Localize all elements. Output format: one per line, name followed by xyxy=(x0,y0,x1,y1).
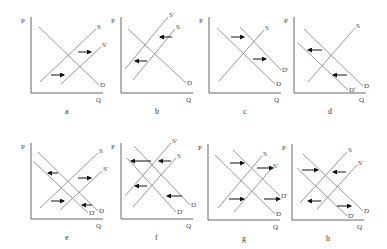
demand-curve xyxy=(33,161,88,213)
curve-label: S' xyxy=(103,165,108,173)
curve-label: S xyxy=(348,146,352,154)
supply-curve xyxy=(60,171,102,210)
axes xyxy=(121,17,193,93)
panel-f: PQDD'S'Sf xyxy=(111,137,196,242)
panel-caption: e xyxy=(65,233,69,242)
curve-label: D xyxy=(100,81,105,89)
curve-label: S xyxy=(265,24,269,32)
curve-label: D' xyxy=(282,66,288,74)
quantity-axis-label: Q xyxy=(186,96,191,104)
panel-h: PQDD'SS'h xyxy=(282,144,369,243)
quantity-axis-label: Q xyxy=(96,222,101,230)
panel-caption: g xyxy=(242,234,246,243)
panel-a: PQDSS'a xyxy=(21,17,107,116)
curve-label: S xyxy=(356,22,360,30)
quantity-axis-label: Q xyxy=(359,96,364,104)
quantity-axis-label: Q xyxy=(96,96,101,104)
panel-c: PQDD'Sc xyxy=(199,17,288,116)
curve-label: D' xyxy=(281,192,287,200)
curve-label: D' xyxy=(89,209,95,217)
price-axis-label: P xyxy=(284,17,288,25)
quantity-axis-label: Q xyxy=(186,222,191,230)
curve-label: S' xyxy=(172,137,177,145)
demand-curve xyxy=(217,28,275,84)
quantity-axis-label: Q xyxy=(273,223,278,231)
curve-label: S xyxy=(97,23,101,31)
curve-label: D' xyxy=(348,212,354,220)
supply-curve xyxy=(133,158,176,207)
curve-label: D xyxy=(187,79,192,87)
curve-label: S' xyxy=(169,11,174,19)
supply-curve xyxy=(218,156,262,208)
curve-label: D xyxy=(276,80,281,88)
curve-label: S' xyxy=(102,41,107,49)
curve-label: D xyxy=(191,201,196,209)
curve-label: D' xyxy=(177,208,183,216)
supply-curve xyxy=(40,153,98,208)
panel-caption: f xyxy=(155,233,158,242)
curve-label: D xyxy=(364,207,369,215)
demand-curve xyxy=(298,43,348,90)
quantity-axis-label: Q xyxy=(357,223,362,231)
panel-e: PQDD'SS'e xyxy=(21,143,108,242)
curve-label: S xyxy=(99,147,103,155)
curve-label: S xyxy=(263,150,267,158)
price-axis-label: P xyxy=(111,17,115,25)
demand-curve xyxy=(215,155,275,214)
price-axis-label: P xyxy=(21,143,25,151)
panel-caption: d xyxy=(328,107,332,116)
price-axis-label: P xyxy=(282,144,286,152)
curve-label: D xyxy=(99,207,104,215)
panel-d: PQDD'Sd xyxy=(284,17,369,116)
supply-curve xyxy=(61,47,101,84)
panel-caption: h xyxy=(326,234,330,243)
price-axis-label: P xyxy=(21,17,25,25)
panel-caption: b xyxy=(155,107,159,116)
curve-label: S' xyxy=(358,159,363,167)
panel-caption: a xyxy=(65,107,69,116)
curve-label: S xyxy=(176,23,180,31)
quantity-axis-label: Q xyxy=(274,96,279,104)
curve-label: D xyxy=(364,82,369,90)
panel-g: PQDD'SS'g xyxy=(198,144,287,243)
axes xyxy=(292,144,364,220)
demand-curve xyxy=(297,168,347,216)
price-axis-label: P xyxy=(199,17,203,25)
curve-label: D xyxy=(276,210,281,218)
panel-caption: c xyxy=(243,107,247,116)
demand-curve xyxy=(233,150,280,196)
panel-b: PQDS'Sb xyxy=(111,11,193,116)
curve-label: S xyxy=(177,152,181,160)
supply-curve xyxy=(219,30,264,81)
supply-demand-figure: PQDSS'aPQDS'SbPQDD'ScPQDD'SdPQDD'SS'ePQD… xyxy=(0,0,387,249)
price-axis-label: P xyxy=(198,144,202,152)
curve-label: S' xyxy=(273,162,278,170)
price-axis-label: P xyxy=(111,143,115,151)
supply-curve xyxy=(125,143,171,196)
curve-label: D' xyxy=(349,86,355,94)
